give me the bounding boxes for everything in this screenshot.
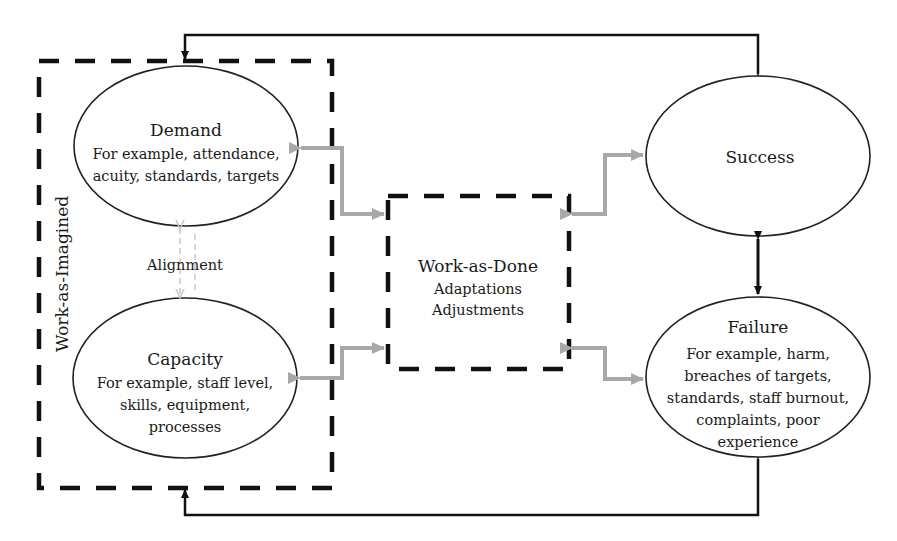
failure-node: Failure For example, harm, breaches of t…: [646, 297, 870, 457]
failure-line-3: standards, staff burnout,: [667, 390, 849, 406]
demand-workdone-arrow: [301, 148, 384, 214]
capacity-line-2: skills, equipment,: [120, 397, 250, 413]
failure-line-1: For example, harm,: [686, 346, 830, 362]
work-as-done-line-1: Adaptations: [433, 281, 522, 297]
demand-node: Demand For example, attendance, acuity, …: [74, 66, 298, 226]
failure-line-5: experience: [718, 434, 799, 450]
workdone-success-arrow: [572, 155, 643, 214]
capacity-line-3: processes: [149, 419, 222, 435]
failure-title: Failure: [728, 317, 789, 337]
success-node: Success: [646, 76, 870, 236]
success-title: Success: [725, 147, 794, 167]
work-as-imagined-label: Work-as-Imagined: [52, 196, 72, 352]
capacity-workdone-arrow: [300, 348, 384, 378]
demand-line-2: acuity, standards, targets: [93, 168, 280, 184]
capacity-node: Capacity For example, staff level, skill…: [73, 298, 297, 458]
work-as-done-title: Work-as-Done: [418, 256, 538, 276]
workdone-failure-arrow: [572, 348, 643, 379]
feedback-arrow-bottom: [185, 459, 758, 515]
diagram-canvas: Work-as-Imagined Work-as-Done Adaptation…: [0, 0, 897, 541]
failure-line-2: breaches of targets,: [684, 368, 831, 384]
failure-line-4: complaints, poor: [696, 412, 819, 428]
capacity-line-1: For example, staff level,: [97, 375, 273, 391]
work-as-done-line-2: Adjustments: [431, 302, 524, 318]
capacity-title: Capacity: [147, 349, 223, 369]
demand-line-1: For example, attendance,: [92, 146, 279, 162]
alignment-label: Alignment: [146, 257, 223, 273]
feedback-arrow-top: [185, 35, 758, 74]
demand-title: Demand: [150, 120, 222, 140]
